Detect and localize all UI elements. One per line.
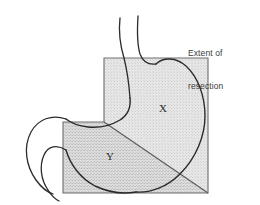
esophagus-right-wall bbox=[137, 16, 156, 64]
resection-diagram: Extent of resection X Y bbox=[0, 0, 260, 205]
zone-y-label: Y bbox=[106, 150, 114, 162]
zone-x-label: X bbox=[159, 102, 167, 114]
extent-of-resection-caption: Extent of resection bbox=[188, 26, 223, 114]
caption-line-2: resection bbox=[188, 81, 223, 92]
duodenum-outer-wall bbox=[26, 117, 66, 194]
caption-line-1: Extent of bbox=[188, 48, 223, 59]
duodenum-inner-wall bbox=[41, 147, 66, 201]
